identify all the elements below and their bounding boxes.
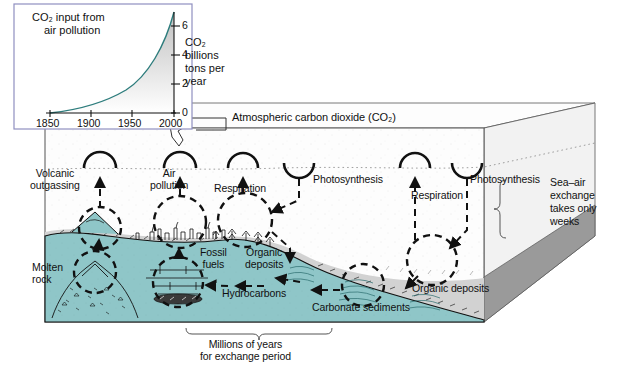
inset-axis-label-3: tons per xyxy=(185,62,225,74)
carbon-cycle-diagram: CO₂ input from air pollution CO₂ billion… xyxy=(0,0,622,366)
inset-xtick-2: 1950 xyxy=(118,117,141,129)
label-organic-deposits-left: Organic deposits xyxy=(245,247,283,270)
label-volcanic-outgassing: Volcanic outgassing xyxy=(30,168,80,191)
inset-ytick-0: 0 xyxy=(182,106,188,118)
label-air-pollution: Air pollution xyxy=(150,168,188,191)
inset-xtick-0: 1850 xyxy=(36,117,59,129)
inset-axis-label-1: CO₂ xyxy=(185,36,206,48)
label-sea-air-exchange: Sea–air exchange takes only weeks xyxy=(550,176,596,228)
inset-ytick-1: 2 xyxy=(182,77,188,89)
label-respiration-right: Respiration xyxy=(411,190,463,202)
inset-title: CO₂ input from xyxy=(32,11,105,23)
label-respiration-left: Respiration xyxy=(214,183,266,195)
label-fossil-fuels: Fossil fuels xyxy=(200,247,227,270)
label-photosynthesis-right: Photosynthesis xyxy=(470,174,540,186)
label-millions-of-years: Millions of years for exchange period xyxy=(200,338,291,362)
label-organic-deposits-right: Organic deposits xyxy=(412,283,489,295)
inset-xtick-1: 1900 xyxy=(77,117,100,129)
label-molten-rock: Molten rock xyxy=(32,262,63,285)
inset-ytick-2: 4 xyxy=(182,48,188,60)
inset-xtick-3: 2000 xyxy=(159,117,182,129)
label-carbonate-sediments: Carbonate sediments xyxy=(312,302,410,314)
inset-title-line2: air pollution xyxy=(44,24,100,36)
inset-ytick-3: 6 xyxy=(182,19,188,31)
inset-axis-label-4: year xyxy=(185,75,206,87)
inset-axis-label-2: billions xyxy=(185,49,219,61)
label-photosynthesis-left: Photosynthesis xyxy=(313,174,383,186)
atmospheric-co2-label: Atmospheric carbon dioxide (CO₂) xyxy=(232,112,396,124)
label-hydrocarbons: Hydrocarbons xyxy=(222,288,286,300)
